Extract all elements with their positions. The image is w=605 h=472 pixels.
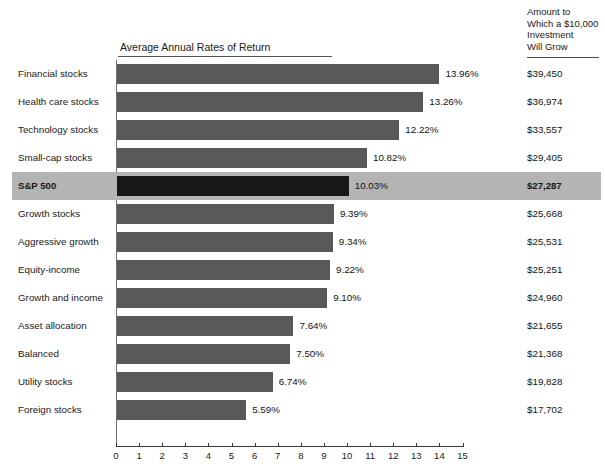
bar-value-label: 9.22% bbox=[336, 256, 364, 284]
bar-value-label: 13.26% bbox=[429, 88, 462, 116]
axis-tick-mark bbox=[416, 443, 417, 447]
axis-tick-mark bbox=[255, 443, 256, 447]
category-label: Technology stocks bbox=[18, 116, 98, 144]
bar-value-label: 9.34% bbox=[339, 228, 367, 256]
axis-tick-label: 11 bbox=[360, 450, 380, 461]
growth-amount-value: $19,828 bbox=[527, 368, 562, 396]
chart-row: Growth stocks9.39%$25,668 bbox=[0, 200, 605, 228]
axis-tick-mark bbox=[232, 443, 233, 447]
axis-tick-mark bbox=[439, 443, 440, 447]
growth-amount-value: $33,557 bbox=[527, 116, 562, 144]
axis-tick-label: 4 bbox=[198, 450, 218, 461]
bar-value-label: 5.59% bbox=[252, 396, 280, 424]
growth-amount-value: $36,974 bbox=[527, 88, 562, 116]
category-label: Financial stocks bbox=[18, 60, 88, 88]
axis-tick-mark bbox=[116, 443, 117, 447]
growth-amount-value: $25,251 bbox=[527, 256, 562, 284]
category-label: Foreign stocks bbox=[18, 396, 82, 424]
category-label: Small-cap stocks bbox=[18, 144, 92, 172]
axis-tick-mark bbox=[324, 443, 325, 447]
bar-value-label: 7.50% bbox=[296, 340, 324, 368]
axis-tick-label: 6 bbox=[245, 450, 265, 461]
chart-row: Health care stocks13.26%$36,974 bbox=[0, 88, 605, 116]
chart-row: Aggressive growth9.34%$25,531 bbox=[0, 228, 605, 256]
value-bar bbox=[117, 400, 246, 420]
bar-value-label: 12.22% bbox=[405, 116, 438, 144]
chart-row: S&P 50010.03%$27,287 bbox=[0, 172, 605, 200]
axis-tick-mark bbox=[463, 443, 464, 447]
growth-amount-value: $25,668 bbox=[527, 200, 562, 228]
axis-tick-label: 15 bbox=[453, 450, 473, 461]
axis-tick-label: 13 bbox=[406, 450, 426, 461]
bar-value-label: 6.74% bbox=[279, 368, 307, 396]
axis-tick-mark bbox=[370, 443, 371, 447]
axis-tick-mark bbox=[162, 443, 163, 447]
category-label: Growth stocks bbox=[18, 200, 80, 228]
chart-row: Growth and income9.10%$24,960 bbox=[0, 284, 605, 312]
axis-tick-mark bbox=[278, 443, 279, 447]
category-label: S&P 500 bbox=[18, 172, 56, 200]
axis-tick-label: 2 bbox=[152, 450, 172, 461]
value-bar bbox=[117, 92, 423, 112]
growth-amount-value: $27,287 bbox=[527, 172, 562, 200]
axis-tick-label: 7 bbox=[268, 450, 288, 461]
chart-row: Equity-income9.22%$25,251 bbox=[0, 256, 605, 284]
axis-tick-mark bbox=[139, 443, 140, 447]
axis-tick-label: 8 bbox=[291, 450, 311, 461]
axis-tick-label: 3 bbox=[175, 450, 195, 461]
growth-amount-value: $21,655 bbox=[527, 312, 562, 340]
bar-chart-plot-area: Financial stocks13.96%$39,450Health care… bbox=[0, 0, 605, 472]
category-label: Aggressive growth bbox=[18, 228, 99, 256]
axis-tick-label: 14 bbox=[429, 450, 449, 461]
chart-row: Balanced7.50%$21,368 bbox=[0, 340, 605, 368]
bar-value-label: 13.96% bbox=[445, 60, 478, 88]
x-axis-line bbox=[116, 446, 464, 447]
growth-amount-value: $29,405 bbox=[527, 144, 562, 172]
axis-tick-label: 5 bbox=[222, 450, 242, 461]
value-bar bbox=[117, 344, 290, 364]
growth-amount-value: $21,368 bbox=[527, 340, 562, 368]
axis-tick-label: 9 bbox=[314, 450, 334, 461]
growth-amount-value: $39,450 bbox=[527, 60, 562, 88]
chart-row: Asset allocation7.64%$21,655 bbox=[0, 312, 605, 340]
growth-amount-value: $17,702 bbox=[527, 396, 562, 424]
category-label: Asset allocation bbox=[18, 312, 87, 340]
axis-tick-mark bbox=[393, 443, 394, 447]
bar-value-label: 7.64% bbox=[299, 312, 327, 340]
value-bar bbox=[117, 204, 334, 224]
chart-row: Small-cap stocks10.82%$29,405 bbox=[0, 144, 605, 172]
growth-amount-value: $25,531 bbox=[527, 228, 562, 256]
bar-value-label: 9.39% bbox=[340, 200, 368, 228]
category-label: Utility stocks bbox=[18, 368, 72, 396]
value-bar bbox=[117, 176, 349, 196]
axis-tick-label: 10 bbox=[337, 450, 357, 461]
chart-row: Foreign stocks5.59%$17,702 bbox=[0, 396, 605, 424]
value-bar bbox=[117, 316, 293, 336]
growth-amount-value: $24,960 bbox=[527, 284, 562, 312]
axis-tick-mark bbox=[185, 443, 186, 447]
bar-value-label: 10.03% bbox=[355, 172, 388, 200]
axis-tick-label: 0 bbox=[106, 450, 126, 461]
chart-row: Financial stocks13.96%$39,450 bbox=[0, 60, 605, 88]
bar-value-label: 10.82% bbox=[373, 144, 406, 172]
chart-row: Technology stocks12.22%$33,557 bbox=[0, 116, 605, 144]
value-bar bbox=[117, 288, 327, 308]
axis-tick-label: 1 bbox=[129, 450, 149, 461]
chart-row: Utility stocks6.74%$19,828 bbox=[0, 368, 605, 396]
category-label: Health care stocks bbox=[18, 88, 99, 116]
axis-tick-mark bbox=[301, 443, 302, 447]
value-bar bbox=[117, 148, 367, 168]
value-bar bbox=[117, 260, 330, 280]
value-bar bbox=[117, 372, 273, 392]
value-bar bbox=[117, 232, 333, 252]
category-label: Equity-income bbox=[18, 256, 80, 284]
axis-tick-label: 12 bbox=[383, 450, 403, 461]
value-bar bbox=[117, 120, 399, 140]
axis-tick-mark bbox=[347, 443, 348, 447]
bar-value-label: 9.10% bbox=[333, 284, 361, 312]
category-label: Growth and income bbox=[18, 284, 103, 312]
value-bar bbox=[117, 64, 439, 84]
category-label: Balanced bbox=[18, 340, 59, 368]
axis-tick-mark bbox=[208, 443, 209, 447]
